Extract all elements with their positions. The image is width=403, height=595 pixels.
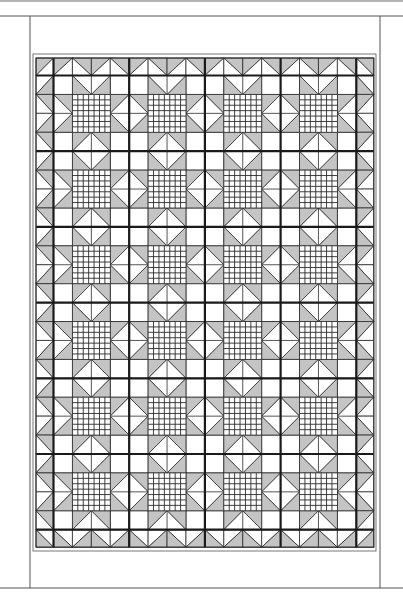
block-corner-square [54,151,73,170]
block-corner-square [110,76,129,95]
block-corner-square [186,511,205,530]
block-corner-square [205,151,224,170]
block-corner-square [54,76,73,95]
block-corner-square [110,132,129,151]
block-corner-square [205,284,224,303]
block-corner-square [205,359,224,378]
block-corner-square [337,359,356,378]
block-corner-square [129,151,148,170]
block-corner-square [110,284,129,303]
block-corner-square [186,76,205,95]
block-corner-square [54,132,73,151]
block-corner-square [205,227,224,246]
block-corner-square [262,208,281,227]
block-corner-square [337,284,356,303]
block-corner-square [262,454,281,473]
block-corner-square [186,151,205,170]
block-corner-square [129,284,148,303]
block-corner-square [110,208,129,227]
block-corner-square [262,378,281,397]
block-corner-square [129,208,148,227]
block-corner-square [281,359,300,378]
block-corner-square [54,511,73,530]
block-corner-square [110,359,129,378]
block-corner-square [110,435,129,454]
block-corner-square [281,151,300,170]
block-corner-square [337,511,356,530]
block-corner-square [281,454,300,473]
block-corner-square [281,303,300,322]
block-corner-square [186,378,205,397]
block-corner-square [110,378,129,397]
block-corner-square [129,359,148,378]
block-corner-square [281,208,300,227]
block-corner-square [337,303,356,322]
block-corner-square [129,303,148,322]
block-corner-square [262,359,281,378]
block-corner-square [54,303,73,322]
block-corner-square [186,454,205,473]
block-corner-square [110,303,129,322]
block-corner-square [110,454,129,473]
block-corner-square [129,76,148,95]
block-corner-square [281,435,300,454]
block-corner-square [281,76,300,95]
block-corner-square [337,454,356,473]
block-corner-square [205,454,224,473]
block-corner-square [281,511,300,530]
block-corner-square [54,208,73,227]
block-corner-square [54,435,73,454]
block-corner-square [205,208,224,227]
block-corner-square [129,132,148,151]
block-corner-square [262,132,281,151]
block-corner-square [262,435,281,454]
block-corner-square [54,227,73,246]
block-corner-square [186,208,205,227]
block-corner-square [281,284,300,303]
block-corner-square [54,284,73,303]
block-corner-square [337,208,356,227]
block-corner-square [205,76,224,95]
block-corner-square [205,435,224,454]
block-corner-square [129,454,148,473]
quilt-diagram [0,0,403,595]
block-corner-square [281,378,300,397]
block-corner-square [186,227,205,246]
block-corner-square [186,359,205,378]
block-corner-square [205,378,224,397]
block-corner-square [110,151,129,170]
block-corner-square [281,132,300,151]
block-corner-square [262,151,281,170]
block-corner-square [337,378,356,397]
block-corner-square [337,435,356,454]
block-corner-square [262,227,281,246]
block-corner-square [129,511,148,530]
block-corner-square [186,132,205,151]
block-corner-square [129,378,148,397]
block-corner-square [337,132,356,151]
block-corner-square [281,227,300,246]
block-corner-square [337,76,356,95]
block-corner-square [337,227,356,246]
block-corner-square [262,76,281,95]
block-corner-square [54,454,73,473]
block-corner-square [205,132,224,151]
block-corner-square [262,303,281,322]
block-corner-square [54,378,73,397]
block-corner-square [205,511,224,530]
block-corner-square [186,284,205,303]
block-corner-square [262,511,281,530]
block-corner-square [262,284,281,303]
block-corner-square [110,511,129,530]
block-corner-square [54,359,73,378]
block-corner-square [186,435,205,454]
block-corner-square [110,227,129,246]
block-corner-square [129,435,148,454]
block-corner-square [205,303,224,322]
block-corner-square [129,227,148,246]
block-corner-square [186,303,205,322]
block-corner-square [337,151,356,170]
quilt-diagram-page [0,0,403,595]
